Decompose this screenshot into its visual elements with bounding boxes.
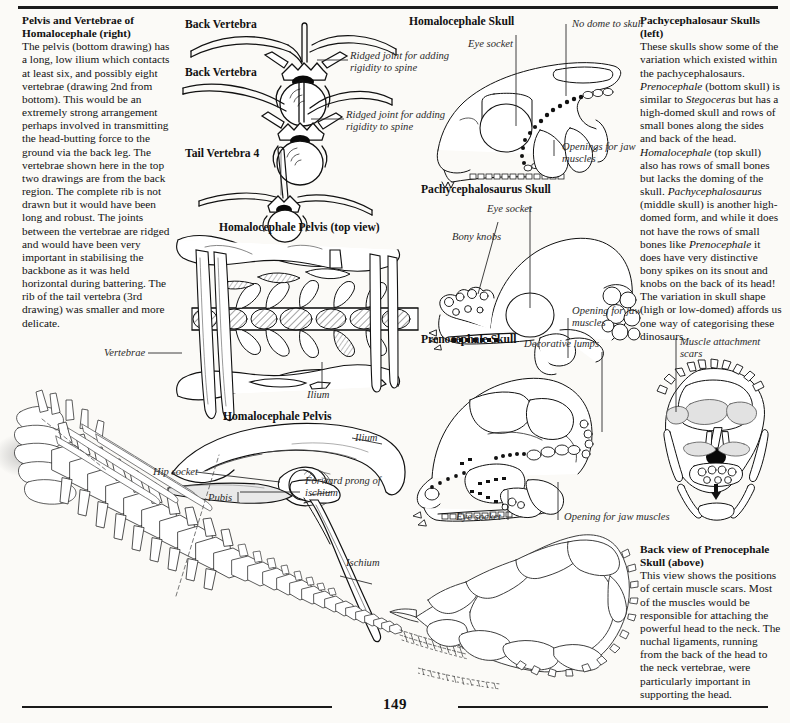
caption-back-vertebra-2: Back Vertebra bbox=[185, 66, 257, 79]
caption-pachycephalosaurus-skull: Pachycephalosaurus Skull bbox=[421, 183, 551, 196]
book-page: 149 Pelvis and Vertebrae of Homalocephal… bbox=[0, 0, 790, 723]
label-muscle-attachment-scars: Muscle attachment scars bbox=[680, 336, 766, 359]
label-eye-socket-prenocephale: Eye socket bbox=[456, 511, 501, 523]
art-prenocephale-back-view bbox=[657, 359, 768, 520]
right-column-bottom-heading: Back view of Prenocephale Skull (above) bbox=[640, 543, 782, 569]
label-no-dome-to-skull: No dome to skull bbox=[572, 18, 644, 30]
page-number: 149 bbox=[332, 696, 458, 713]
label-opening-for-jaw-muscles-prenocephale: Opening for jaw muscles bbox=[564, 511, 670, 523]
left-column-heading: Pelvis and Vertebrae of Homalocephale (r… bbox=[22, 14, 170, 40]
label-decorative-lumps: Decorative lumps bbox=[524, 338, 599, 350]
label-ridged-joint-1: Ridged joint for adding rigidity to spin… bbox=[350, 50, 460, 73]
label-ilium-top-view: Ilium bbox=[307, 389, 329, 401]
art-back-vertebra-2 bbox=[183, 80, 392, 185]
caption-back-vertebra-1: Back Vertebra bbox=[185, 18, 257, 31]
art-homalocephale-skull bbox=[437, 63, 621, 188]
label-eye-socket-homalocephale: Eye socket bbox=[468, 38, 513, 50]
label-opening-for-jaw-muscles-pachycephalosaurus: Opening for jaw muscles bbox=[572, 305, 648, 328]
label-vertebrae: Vertebrae bbox=[104, 347, 145, 359]
art-prenocephale-skull bbox=[413, 378, 593, 526]
art-bone-row-bottom bbox=[418, 668, 500, 689]
label-forward-prong-of-ischium: Forward prong of ischium bbox=[305, 475, 391, 498]
art-pelvis-side-view bbox=[168, 423, 405, 641]
label-ischium: Ischium bbox=[346, 557, 380, 569]
right-column-top-heading: Pachycephalosaur Skulls (left) bbox=[640, 14, 782, 40]
label-ilium-side: Ilium bbox=[355, 432, 377, 444]
label-bony-knobs: Bony knobs bbox=[452, 231, 501, 243]
art-tail-skeleton bbox=[0, 390, 468, 659]
left-column-text: Pelvis and Vertebrae of Homalocephale (r… bbox=[22, 14, 170, 330]
caption-homalocephale-skull: Homalocephale Skull bbox=[409, 15, 514, 28]
right-column-text-top: Pachycephalosaur Skulls (left) These sku… bbox=[640, 14, 782, 343]
right-column-bottom-body: This view shows the positions of certain… bbox=[640, 569, 782, 701]
right-column-text-bottom: Back view of Prenocephale Skull (above) … bbox=[640, 543, 782, 701]
bottom-rule-right bbox=[458, 706, 768, 708]
label-openings-for-jaw-muscles-homalocephale: Openings for jaw muscles bbox=[562, 141, 642, 164]
top-rule bbox=[18, 6, 778, 9]
label-eye-socket-pachycephalosaurus: Eye socket bbox=[487, 203, 532, 215]
label-pubis: Pubis bbox=[208, 492, 232, 504]
right-column-top-body: These skulls show some of the variation … bbox=[640, 40, 782, 343]
bottom-rule-left bbox=[22, 706, 332, 708]
caption-tail-vertebra-4: Tail Vertebra 4 bbox=[185, 147, 259, 160]
label-ridged-joint-2: Ridged joint for adding rigidity to spin… bbox=[346, 109, 458, 132]
caption-pelvis-side-view: Homalocephale Pelvis bbox=[223, 410, 332, 423]
label-hip-socket: Hip socket bbox=[153, 466, 198, 478]
left-column-body: The pelvis (bottom drawing) has a long, … bbox=[22, 40, 170, 329]
caption-pelvis-top-view: Homalocephale Pelvis (top view) bbox=[219, 221, 380, 234]
caption-prenocephale-skull: Prenocephale Skull bbox=[421, 333, 516, 346]
art-prenocephale-skull-top-view bbox=[390, 535, 638, 677]
art-pelvis-top-view bbox=[177, 235, 418, 420]
